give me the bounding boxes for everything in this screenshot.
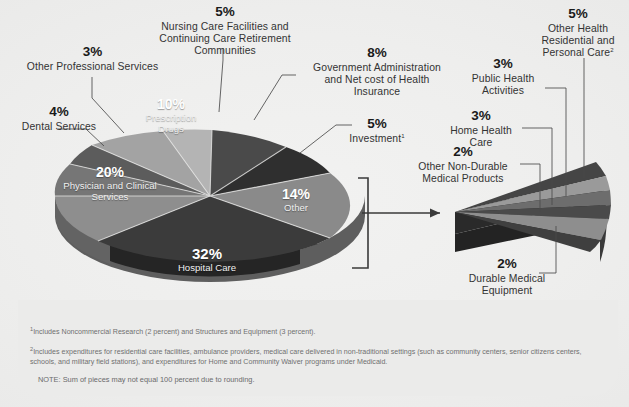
- inpie-label-line1: Other: [268, 202, 324, 213]
- chart-note: NOTE: Sum of pieces may not equal 100 pe…: [38, 375, 605, 384]
- callout-label-line1: Durable Medical: [452, 273, 562, 285]
- callout-dental-services[interactable]: 4% Dental Services: [0, 104, 118, 133]
- inpie-pct: 14%: [268, 186, 324, 202]
- callout-durable-medical-equipment[interactable]: 2% Durable Medical Equipment: [452, 256, 562, 297]
- callout-label: Dental Services: [0, 121, 118, 133]
- callout-pct: 5%: [340, 116, 414, 132]
- callout-label-line2: Medical Products: [404, 173, 522, 185]
- callout-pct: 4%: [0, 104, 118, 120]
- callout-pct: 8%: [302, 45, 452, 61]
- callout-label-line1: Government Administration: [302, 62, 452, 74]
- inpie-label-line1: Hospital Care: [152, 262, 262, 273]
- inpie-pct: 32%: [152, 245, 262, 262]
- inpie-label-line2: Drugs: [128, 123, 214, 134]
- chart-canvas: 3% Other Professional Services 4% Dental…: [0, 0, 629, 407]
- footnote-2-text: Includes expenditures for residential ca…: [30, 348, 582, 366]
- callout-nursing-care[interactable]: 5% Nursing Care Facilities and Continuin…: [142, 4, 308, 57]
- callout-pct: 5%: [142, 4, 308, 20]
- callout-other-health-residential[interactable]: 5% Other Health Residential and Personal…: [530, 6, 626, 60]
- callout-label-line2: Activities: [460, 85, 546, 97]
- callout-label-line2: Residential and: [530, 35, 626, 47]
- callout-pct: 5%: [530, 6, 626, 22]
- callout-public-health-activities[interactable]: 3% Public Health Activities: [460, 56, 546, 97]
- callout-home-health-care[interactable]: 3% Home Health Care: [438, 108, 524, 149]
- inpie-label-physician-clinical[interactable]: 20% Physician and Clinical Services: [48, 164, 172, 202]
- callout-label: Other Professional Services: [10, 61, 175, 73]
- callout-label-line1: Other Health: [530, 23, 626, 35]
- inpie-label-line2: Services: [48, 191, 172, 202]
- footnote-marker-1: 1: [401, 133, 404, 139]
- callout-label-line3: Insurance: [302, 86, 452, 98]
- callout-label-line3: Personal Care2: [530, 47, 626, 60]
- footnotes-block: 1Includes Noncommercial Research (2 perc…: [30, 325, 605, 384]
- callout-label-line2: Continuing Care Retirement: [142, 33, 308, 45]
- inpie-label-other[interactable]: 14% Other: [268, 186, 324, 213]
- inpie-pct: 10%: [128, 96, 214, 112]
- callout-label-line1: Public Health: [460, 73, 546, 85]
- callout-investment[interactable]: 5% Investment1: [340, 116, 414, 145]
- footnote-marker-2: 2: [610, 47, 613, 53]
- inpie-pct: 20%: [48, 164, 172, 180]
- inpie-label-prescription-drugs[interactable]: 10% Prescription Drugs: [128, 96, 214, 134]
- inpie-label-line1: Physician and Clinical: [48, 180, 172, 191]
- connector-bracket-arrow: [352, 178, 440, 268]
- inpie-label-line1: Prescription: [128, 112, 214, 123]
- callout-label-line2: Care: [438, 137, 524, 149]
- callout-label-line1: Nursing Care Facilities and: [142, 21, 308, 33]
- inpie-label-hospital-care[interactable]: 32% Hospital Care: [152, 245, 262, 274]
- callout-label: Investment1: [340, 133, 414, 146]
- footnote-1: 1Includes Noncommercial Research (2 perc…: [30, 325, 605, 338]
- callout-government-administration[interactable]: 8% Government Administration and Net cos…: [302, 45, 452, 98]
- callout-label-line1: Home Health: [438, 125, 524, 137]
- footnote-2: 2Includes expenditures for residential c…: [30, 345, 605, 368]
- callout-pct: 3%: [438, 108, 524, 124]
- callout-other-non-durable[interactable]: 2% Other Non-Durable Medical Products: [404, 144, 522, 185]
- callout-pct: 2%: [452, 256, 562, 272]
- callout-label-line1: Other Non-Durable: [404, 161, 522, 173]
- footnote-1-text: Includes Noncommercial Research (2 perce…: [33, 328, 315, 336]
- callout-label-line3: Communities: [142, 45, 308, 57]
- callout-label-line2: Equipment: [452, 285, 562, 297]
- callout-label-line2: and Net cost of Health: [302, 74, 452, 86]
